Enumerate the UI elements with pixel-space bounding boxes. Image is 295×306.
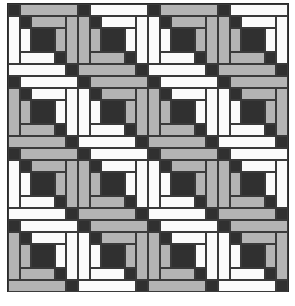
outer-left-log [148,160,160,208]
outer-right-log [66,160,78,208]
outer-right-log [136,88,148,136]
outer-left-log [78,88,90,136]
outer-right-log [276,232,288,280]
middle-top-log [31,232,66,244]
outer-top-left-corner [148,220,160,232]
outer-right-log [276,160,288,208]
outer-top-left-corner [218,220,230,232]
outer-top-left-corner [218,76,230,88]
middle-bottom-log [160,52,195,64]
middle-top-log [241,88,276,100]
outer-top-log [20,220,78,232]
outer-right-log [66,16,78,64]
middle-bottom-log [20,268,55,280]
middle-bottom-right-corner [125,52,136,64]
quilt-block-a [8,4,78,76]
middle-top-left-corner [230,160,241,172]
middle-right-log [125,172,136,196]
outer-bottom-right-corner [206,280,218,292]
outer-top-log [230,220,288,232]
outer-bottom-log [148,136,206,148]
middle-right-log [265,28,276,52]
center-square [31,28,55,52]
middle-top-log [171,88,206,100]
center-square [101,100,125,124]
middle-left-log [90,100,101,124]
center-square [171,172,195,196]
quilt-block-a [78,220,148,292]
center-square [31,172,55,196]
middle-left-log [90,244,101,268]
outer-top-log [90,220,148,232]
middle-bottom-right-corner [195,52,206,64]
outer-bottom-right-corner [136,64,148,76]
middle-top-log [101,88,136,100]
middle-top-log [241,16,276,28]
outer-top-log [90,4,148,16]
middle-left-log [20,28,31,52]
outer-top-log [230,4,288,16]
middle-top-log [241,232,276,244]
outer-top-log [230,76,288,88]
outer-top-left-corner [78,220,90,232]
outer-bottom-log [218,136,276,148]
middle-right-log [55,172,66,196]
outer-right-log [206,232,218,280]
outer-bottom-log [148,280,206,292]
middle-left-log [160,100,171,124]
outer-right-log [136,160,148,208]
outer-left-log [218,88,230,136]
outer-top-left-corner [78,4,90,16]
outer-top-log [160,4,218,16]
middle-bottom-log [20,124,55,136]
middle-bottom-log [230,52,265,64]
middle-bottom-log [160,196,195,208]
outer-top-left-corner [8,76,20,88]
middle-bottom-log [20,52,55,64]
outer-left-log [78,232,90,280]
middle-right-log [125,100,136,124]
outer-left-log [218,160,230,208]
middle-bottom-right-corner [55,52,66,64]
middle-top-left-corner [160,16,171,28]
middle-top-left-corner [20,88,31,100]
quilt-block-a [8,148,78,220]
center-square [241,100,265,124]
middle-top-left-corner [230,232,241,244]
middle-bottom-log [160,124,195,136]
outer-left-log [8,232,20,280]
outer-top-left-corner [148,76,160,88]
middle-top-left-corner [160,160,171,172]
quilt-block-a [78,76,148,148]
outer-top-left-corner [8,220,20,232]
middle-top-left-corner [90,88,101,100]
quilt-block-a [148,4,218,76]
center-square [31,244,55,268]
middle-right-log [195,244,206,268]
outer-bottom-right-corner [136,136,148,148]
middle-bottom-right-corner [265,52,276,64]
middle-right-log [55,244,66,268]
center-square [241,244,265,268]
middle-bottom-log [90,268,125,280]
middle-bottom-right-corner [55,196,66,208]
outer-bottom-right-corner [206,136,218,148]
middle-top-left-corner [90,232,101,244]
middle-top-left-corner [160,232,171,244]
outer-top-left-corner [8,4,20,16]
outer-bottom-log [148,208,206,220]
outer-top-log [160,76,218,88]
outer-left-log [8,16,20,64]
center-square [241,172,265,196]
outer-bottom-log [78,208,136,220]
middle-bottom-right-corner [125,268,136,280]
middle-left-log [230,100,241,124]
outer-top-left-corner [78,148,90,160]
quilt-block-a [148,148,218,220]
center-square [171,244,195,268]
quilt-image [7,3,289,292]
outer-top-left-corner [148,148,160,160]
middle-bottom-log [90,124,125,136]
middle-bottom-right-corner [265,124,276,136]
middle-left-log [160,172,171,196]
